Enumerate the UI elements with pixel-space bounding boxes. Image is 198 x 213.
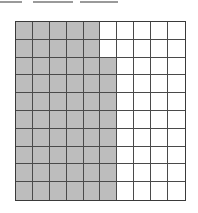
grid-cell-shaded [16,129,33,147]
grid-cell [168,147,185,165]
grid-cell-shaded [84,147,101,165]
grid-cell-shaded [100,129,117,147]
grid-cell-shaded [16,164,33,182]
grid-cell-shaded [84,93,101,111]
grid-cell-shaded [84,182,101,200]
grid-cell [134,164,151,182]
grid-cell-shaded [16,147,33,165]
grid-cell [168,164,185,182]
grid-cell [134,93,151,111]
grid-cell [151,182,168,200]
grid-cell-shaded [84,58,101,76]
grid-cell-shaded [33,22,50,40]
grid-cell-shaded [67,40,84,58]
grid-cell-shaded [33,58,50,76]
answer-blank-line [80,1,118,3]
grid-cell-shaded [33,164,50,182]
grid-cell [134,75,151,93]
grid-cell [134,111,151,129]
grid-cell-shaded [100,182,117,200]
grid-cell [134,182,151,200]
grid-cell-shaded [84,129,101,147]
grid-cell-shaded [50,75,67,93]
grid-cell [151,40,168,58]
grid-cell-shaded [50,147,67,165]
grid-cell-shaded [50,58,67,76]
grid-cell-shaded [33,93,50,111]
grid-cell [117,58,134,76]
grid-cell-shaded [84,40,101,58]
grid-cell-shaded [50,111,67,129]
grid-cell [117,93,134,111]
grid-cell-shaded [100,164,117,182]
grid-cell-shaded [100,93,117,111]
grid-cell-shaded [84,164,101,182]
grid-cell [168,58,185,76]
grid-cell [100,22,117,40]
grid-cell-shaded [16,111,33,129]
grid-cell-shaded [16,58,33,76]
grid-cell-shaded [84,22,101,40]
grid-cell-shaded [67,182,84,200]
grid-cell [134,147,151,165]
grid-cell-shaded [33,40,50,58]
grid-cell [100,40,117,58]
grid-cell-shaded [33,111,50,129]
grid-cell [117,75,134,93]
grid-cell-shaded [33,75,50,93]
grid-cell-shaded [50,22,67,40]
grid-cell-shaded [67,164,84,182]
grid-cell [134,40,151,58]
grid-cell [117,111,134,129]
grid-cell-shaded [16,22,33,40]
grid-cell [168,40,185,58]
grid-cell-shaded [67,93,84,111]
grid-cell-shaded [67,111,84,129]
grid-cell-shaded [33,182,50,200]
grid-cell [151,147,168,165]
grid-cell-shaded [67,75,84,93]
grid-cell [151,111,168,129]
grid-cell [151,129,168,147]
grid-cell [151,75,168,93]
answer-blank-line [33,1,73,3]
grid-cell-shaded [100,58,117,76]
grid-cell [117,147,134,165]
grid-cell-shaded [50,129,67,147]
grid-cell-shaded [50,93,67,111]
grid-cell-shaded [84,75,101,93]
grid-cell [168,129,185,147]
grid-cell [168,111,185,129]
grid-cell-shaded [67,129,84,147]
grid-cell-shaded [50,182,67,200]
hundred-grid [15,21,186,201]
grid-cell-shaded [16,40,33,58]
grid-cell [151,93,168,111]
grid-cell-shaded [67,22,84,40]
grid-cell [151,22,168,40]
grid-cell-shaded [100,75,117,93]
grid-cell [151,58,168,76]
grid-cell-shaded [50,164,67,182]
grid-cell [134,129,151,147]
grid-cell [168,22,185,40]
grid-cell-shaded [16,93,33,111]
grid-cell-shaded [33,147,50,165]
answer-blank-line [0,1,22,3]
grid-cell [117,164,134,182]
grid-cell-shaded [67,147,84,165]
grid-cell [168,182,185,200]
grid-cell [168,75,185,93]
grid-cell-shaded [50,40,67,58]
grid-cell [151,164,168,182]
grid-cell [117,22,134,40]
grid-cell-shaded [100,111,117,129]
grid-cell [117,182,134,200]
grid-cell [134,58,151,76]
grid-cell-shaded [100,147,117,165]
grid-cell-shaded [33,129,50,147]
grid-cell-shaded [16,182,33,200]
grid-cell-shaded [67,58,84,76]
grid-cell [117,129,134,147]
grid-cell-shaded [16,75,33,93]
